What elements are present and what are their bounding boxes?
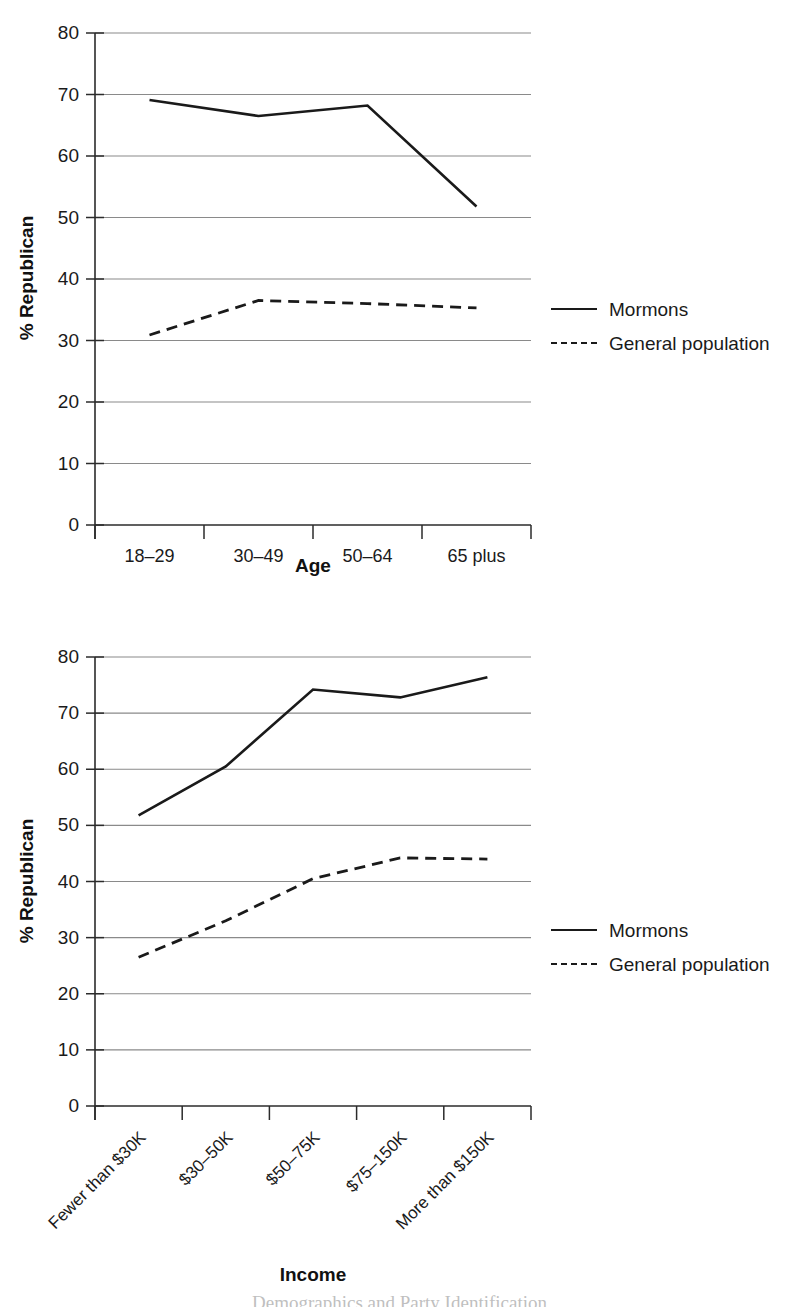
legend-item-general-population: General population [551,326,770,360]
legend-line-dashed-icon [551,336,597,350]
y-tick-label: 70 [17,85,79,104]
chart-income-x-axis-title: Income [193,1264,433,1286]
series-line-general-population [150,301,477,335]
y-tick-label: 0 [17,1096,79,1115]
chart-age-y-axis-title: % Republican [16,178,38,378]
y-tick-label: 10 [17,1040,79,1059]
chart-income-legend: Mormons General population [551,913,770,981]
legend-item-mormons: Mormons [551,292,770,326]
y-tick-label: 0 [17,515,79,534]
y-tick-label: 80 [17,23,79,42]
chart-age-legend: Mormons General population [551,292,770,360]
legend-line-dashed-icon [551,957,597,971]
chart-income: 01020304050607080Fewer than $30K$30–50K$… [0,600,799,1307]
series-line-general-population [139,858,488,957]
legend-label-mormons: Mormons [609,921,688,940]
legend-line-solid-icon [551,302,597,316]
page-caption: Demographics and Party Identification [0,1292,799,1307]
legend-label-general-population: General population [609,334,770,353]
legend-line-solid-icon [551,923,597,937]
y-tick-label: 20 [17,984,79,1003]
y-tick-label: 20 [17,392,79,411]
y-tick-label: 60 [17,146,79,165]
y-tick-label: 60 [17,759,79,778]
y-tick-label: 10 [17,454,79,473]
legend-item-general-population: General population [551,947,770,981]
chart-age: 0102030405060708018–2930–4950–6465 plus … [0,0,799,600]
legend-item-mormons: Mormons [551,913,770,947]
y-tick-label: 70 [17,703,79,722]
series-line-mormons [150,100,477,206]
y-tick-label: 80 [17,647,79,666]
chart-income-y-axis-title: % Republican [16,781,38,981]
series-line-mormons [139,677,488,815]
legend-label-mormons: Mormons [609,300,688,319]
chart-age-x-axis-title: Age [193,555,433,577]
legend-label-general-population: General population [609,955,770,974]
